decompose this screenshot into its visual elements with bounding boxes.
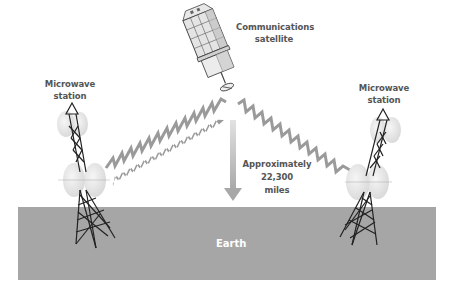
left-station-label: Microwave station: [40, 78, 100, 102]
distance-label-line3: miles: [242, 184, 312, 197]
left-station-label-line2: station: [40, 90, 100, 102]
satellite-label-line1: Communications: [236, 21, 312, 33]
right-station-label: Microwave station: [354, 82, 414, 106]
right-station-label-line1: Microwave: [354, 82, 414, 94]
distance-label-line2: 22,300: [242, 171, 312, 184]
earth-label: Earth: [216, 238, 246, 249]
satellite-label-line2: satellite: [236, 33, 312, 45]
diagram-canvas: Communications satellite Microwave stati…: [0, 0, 458, 294]
satellite-label: Communications satellite: [236, 21, 312, 45]
distance-arrow: [224, 120, 242, 201]
distance-label: Approximately 22,300 miles: [242, 158, 312, 197]
satellite-icon: [179, 1, 244, 96]
left-station-label-line1: Microwave: [40, 78, 100, 90]
right-station-label-line2: station: [354, 94, 414, 106]
left-signal-zigzag: [106, 99, 226, 168]
left-signal-bolt: [96, 92, 241, 212]
dish-icon: [383, 117, 401, 143]
distance-label-line1: Approximately: [242, 158, 312, 171]
